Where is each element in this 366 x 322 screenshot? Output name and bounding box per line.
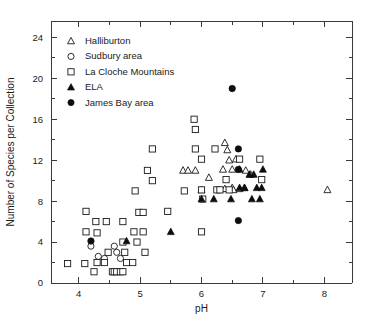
data-point [82,260,88,266]
legend-marker-circle-open [68,53,74,59]
data-point [235,146,241,152]
data-point [192,126,198,132]
data-point [229,85,235,91]
data-point [101,259,107,265]
data-point [324,186,331,193]
data-point [83,229,89,235]
data-point [131,229,137,235]
data-point [130,259,136,265]
y-tick-label: 16 [32,114,43,125]
x-tick-label: 4 [76,288,81,299]
data-point [259,166,266,173]
data-point [221,139,228,146]
data-point [226,187,232,193]
y-tick-label: 8 [38,196,43,207]
data-point [140,209,146,215]
data-point [120,269,126,275]
data-point [165,208,171,214]
data-point [236,156,242,162]
data-point [144,167,150,173]
scatter-plot-figure: 4567804812162024pHNumber of Species per … [0,0,366,322]
data-point [95,253,101,259]
data-point [94,259,100,265]
data-point [91,269,97,275]
data-point [258,184,265,191]
data-point [167,228,174,235]
data-point [64,260,70,266]
data-point [198,156,204,162]
y-tick-label: 12 [32,155,43,166]
x-tick-label: 5 [137,288,142,299]
data-point [120,218,126,224]
data-point [83,208,89,214]
x-tick-label: 8 [322,288,327,299]
legend-label: Halliburton [85,35,130,46]
x-tick-label: 6 [199,288,204,299]
data-point [217,187,223,193]
y-tick-label: 20 [32,73,43,84]
legend-label: James Bay area [85,97,154,108]
data-point [198,187,204,193]
data-point [220,166,227,173]
legend-label: Sudbury area [85,50,143,61]
series-la-cloche-mountains [64,116,264,275]
y-tick-label: 24 [32,32,43,43]
data-point [256,195,263,202]
y-tick-label: 4 [38,236,43,247]
data-point [212,146,218,152]
data-point [198,229,204,235]
data-point [235,166,241,172]
y-tick-label: 0 [38,277,43,288]
data-point [226,156,233,163]
data-point [228,195,235,202]
y-axis-title: Number of Species per Collection [5,78,16,227]
data-point [149,178,155,184]
legend-label: ELA [85,81,104,92]
data-point [142,249,148,255]
data-point [191,116,197,122]
series-james-bay-area [88,85,242,244]
data-point [132,188,138,194]
data-point [114,249,120,255]
x-tick-label: 7 [260,288,265,299]
data-point [88,238,94,244]
legend-marker-square-open [68,69,74,75]
data-point [205,174,212,181]
data-point [122,249,128,255]
data-point [103,218,109,224]
data-point [192,146,198,152]
data-point [117,255,123,261]
legend-marker-triangle-filled [68,84,75,90]
data-point [259,177,265,183]
data-point [140,229,146,235]
data-point [192,167,199,174]
legend-label: La Cloche Mountains [85,66,174,77]
data-point [134,239,140,245]
data-point [185,167,192,174]
data-point [94,230,100,236]
legend-marker-circle-filled [68,100,74,106]
x-axis-title: pH [195,303,208,314]
data-point [123,259,129,265]
data-point [93,218,99,224]
chart-canvas: 4567804812162024pHNumber of Species per … [0,0,366,322]
data-point [181,188,187,194]
data-point [149,146,155,152]
data-point [210,195,217,202]
data-point [105,249,111,255]
data-point [229,166,236,173]
data-point [224,146,231,153]
series-halliburton [180,139,331,193]
legend-marker-triangle-open [68,37,75,43]
data-point [111,243,117,249]
data-point [241,184,248,191]
data-point [257,156,263,162]
data-point [235,217,241,223]
data-point [248,195,255,202]
data-point [223,177,229,183]
